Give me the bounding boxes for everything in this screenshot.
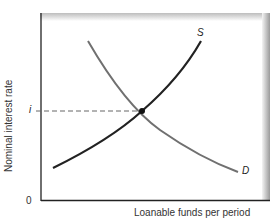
plot-frame-right — [262, 13, 270, 200]
demand-curve — [88, 41, 238, 172]
supply-curve — [53, 41, 201, 168]
origin-label: 0 — [26, 195, 32, 206]
plot-frame-top — [40, 13, 270, 21]
equilibrium-point — [139, 108, 145, 114]
y-axis-label: Nominal interest rate — [3, 80, 14, 172]
x-axis-label: Loanable funds per period — [134, 207, 250, 218]
supply-label: S — [197, 27, 204, 38]
equilibrium-rate-label: i — [29, 104, 31, 115]
demand-label: D — [242, 165, 249, 176]
chart-canvas — [0, 0, 273, 224]
